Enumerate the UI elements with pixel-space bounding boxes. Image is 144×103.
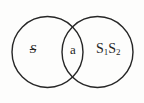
right-region-label: S1S2 [96,42,134,56]
right-label-s1-subscript: 1 [104,47,109,57]
left-region-label: S [20,42,46,55]
right-label-s2-subscript: 2 [116,47,121,57]
intersection-region-label: a [62,43,84,56]
venn-diagram: S a S1S2 [0,0,144,103]
right-label-s1-base: S [96,41,104,56]
right-label-s2-base: S [108,41,116,56]
